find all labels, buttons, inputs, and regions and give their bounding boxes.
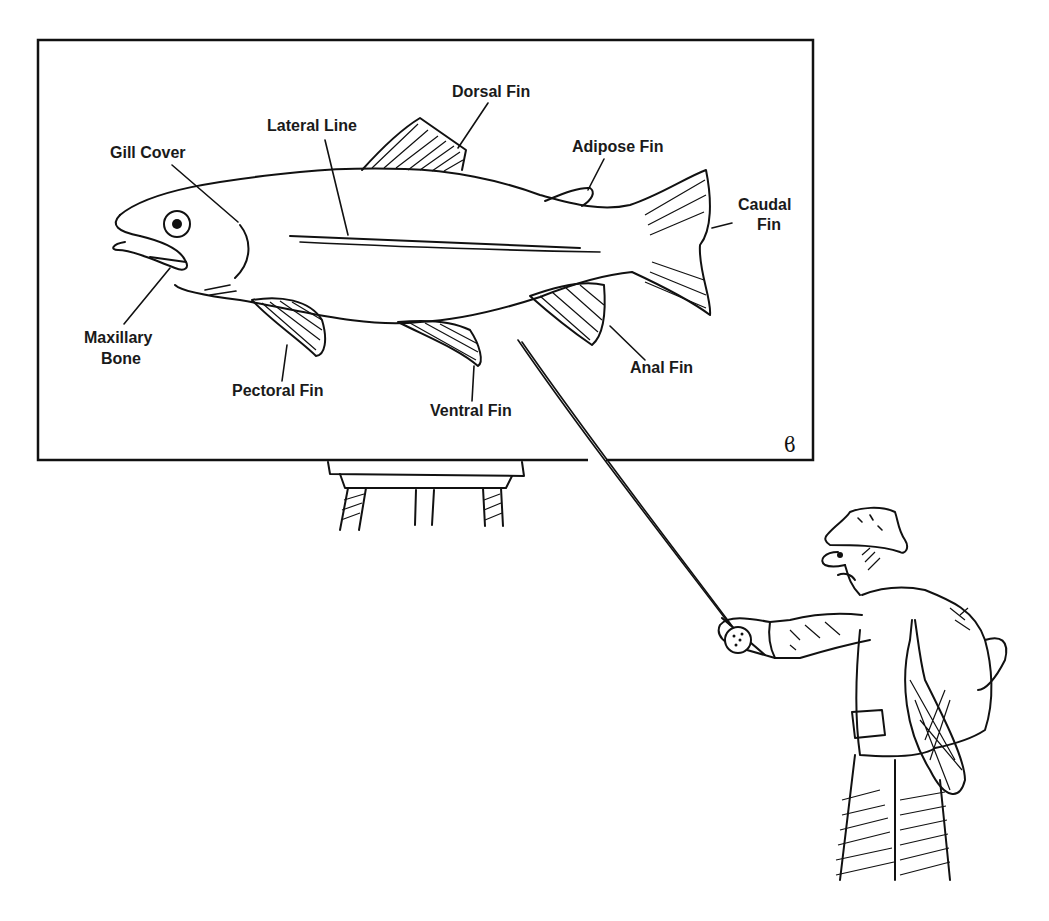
chart-board — [38, 40, 813, 460]
artist-signature: ϐ — [784, 433, 796, 457]
label-lateral-line: Lateral Line — [267, 117, 357, 134]
label-dorsal-fin: Dorsal Fin — [452, 83, 530, 100]
label-anal-fin: Anal Fin — [630, 359, 693, 376]
fish-anatomy-illustration: Gill Cover Lateral Line Dorsal Fin Adipo… — [0, 0, 1049, 921]
label-ventral-fin: Ventral Fin — [430, 402, 512, 419]
label-adipose-fin: Adipose Fin — [572, 138, 664, 155]
label-pectoral-fin: Pectoral Fin — [232, 382, 324, 399]
label-gill-cover: Gill Cover — [110, 144, 186, 161]
easel — [328, 462, 524, 530]
fisherman-character — [719, 508, 1007, 880]
